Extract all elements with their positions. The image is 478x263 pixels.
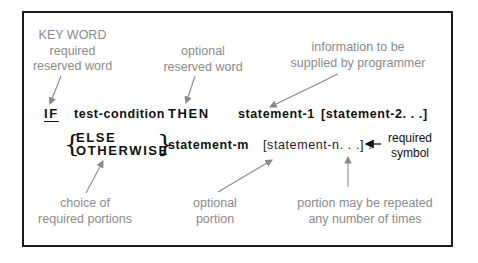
annotation-line: required portions — [30, 212, 140, 228]
annotation-line: required — [382, 131, 438, 146]
annotation-line: supplied by programmer — [283, 56, 433, 72]
annotation-line: choice of — [30, 196, 140, 212]
annotation-line: reserved word — [30, 59, 115, 75]
choice-annotation: choice of required portions — [30, 196, 140, 227]
statement-m: statement-m — [168, 138, 249, 152]
annotation-line: optional — [158, 44, 248, 60]
test-condition: test-condition — [74, 107, 165, 121]
statement-1: statement-1 — [238, 107, 315, 121]
arrow-optional-reserved — [186, 76, 195, 103]
annotation-line: optional — [185, 196, 245, 212]
keyword-annotation: KEY WORD required reserved word — [30, 28, 115, 75]
then-keyword: THEN — [168, 106, 210, 121]
annotation-line: reserved word — [158, 60, 248, 76]
arrow-keyword — [50, 76, 61, 104]
statement-2-optional: [statement-2. . .] — [321, 107, 428, 121]
statement-n-optional: [statement-n. . .] . — [263, 138, 372, 152]
annotation-line: portion may be repeated — [290, 196, 440, 212]
arrow-programmer-info — [270, 74, 338, 107]
optional-reserved-annotation: optional reserved word — [158, 44, 248, 75]
arrow-choice — [86, 161, 103, 193]
annotation-line: portion — [185, 212, 245, 228]
programmer-info-annotation: information to be supplied by programmer — [283, 40, 433, 71]
required-symbol-annotation: required symbol — [382, 131, 438, 161]
annotation-line: KEY WORD — [30, 28, 115, 44]
if-keyword: IF — [44, 106, 59, 121]
arrow-optional-portion — [218, 160, 272, 192]
annotation-line: information to be — [283, 40, 433, 56]
repeated-annotation: portion may be repeated any number of ti… — [290, 196, 440, 227]
otherwise-keyword: OTHERWISE — [76, 144, 169, 158]
annotation-line: symbol — [382, 146, 438, 161]
optional-portion-annotation: optional portion — [185, 196, 245, 227]
annotation-line: required — [30, 44, 115, 60]
annotation-line: any number of times — [290, 212, 440, 228]
